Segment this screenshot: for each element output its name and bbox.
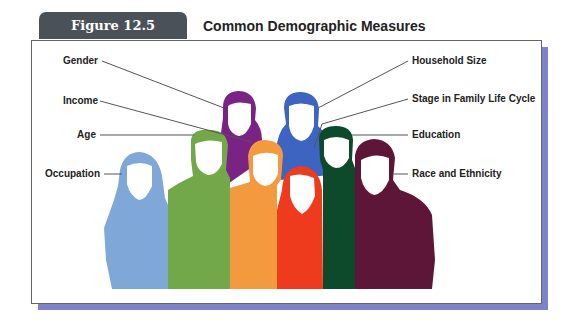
label-race-and-ethnicity: Race and Ethnicity [412, 168, 501, 179]
label-household-size: Household Size [412, 55, 486, 66]
people-illustration [0, 0, 571, 330]
green-figure [168, 130, 230, 289]
label-stage-in-family-life-cycle: Stage in Family Life Cycle [412, 93, 535, 104]
label-education: Education [412, 129, 460, 140]
label-income: Income [63, 95, 98, 106]
dark-green-figure [319, 126, 355, 289]
maroon-figure [355, 139, 435, 289]
light-blue-figure [104, 152, 168, 289]
red-figure [277, 166, 323, 289]
label-age: Age [77, 129, 96, 140]
label-occupation: Occupation [45, 168, 100, 179]
label-gender: Gender [63, 55, 98, 66]
